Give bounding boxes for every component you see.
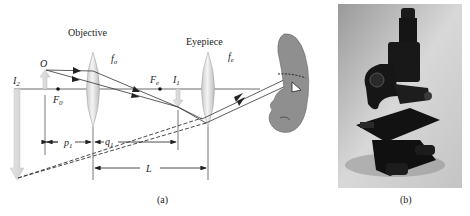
observer-face (269, 34, 309, 133)
compound-microscope-figure: Objective Eyepiece fo fe O I2 F0 Fe I1 p… (0, 0, 470, 216)
i2-label: I2 (12, 75, 20, 88)
microscope-photo (338, 4, 462, 188)
fe-point (158, 87, 162, 91)
caption-a: (a) (157, 194, 168, 206)
final-image-arrow (10, 89, 24, 180)
caption-b: (b) (400, 194, 412, 206)
object-arrow (40, 70, 50, 89)
objective-label: Objective (68, 27, 107, 38)
dimension-lines (45, 95, 208, 180)
objective-focal-label: fo (111, 53, 118, 66)
object-label: O (40, 58, 47, 69)
eyepiece-focal-label: fe (228, 51, 234, 64)
objective-lens (87, 52, 100, 127)
f0-label: F0 (52, 94, 63, 107)
eyepiece-label: Eyepiece (186, 36, 223, 47)
p1-label: p1 (63, 137, 73, 150)
q1-label: q1 (105, 136, 114, 149)
f0-point (56, 87, 60, 91)
L-label: L (145, 163, 152, 174)
intermediate-image-arrow (173, 89, 183, 107)
ray-arrowhead (73, 67, 81, 74)
light-rays (46, 70, 290, 123)
fe-label: Fe (149, 74, 159, 87)
i1-label: I1 (172, 74, 180, 87)
